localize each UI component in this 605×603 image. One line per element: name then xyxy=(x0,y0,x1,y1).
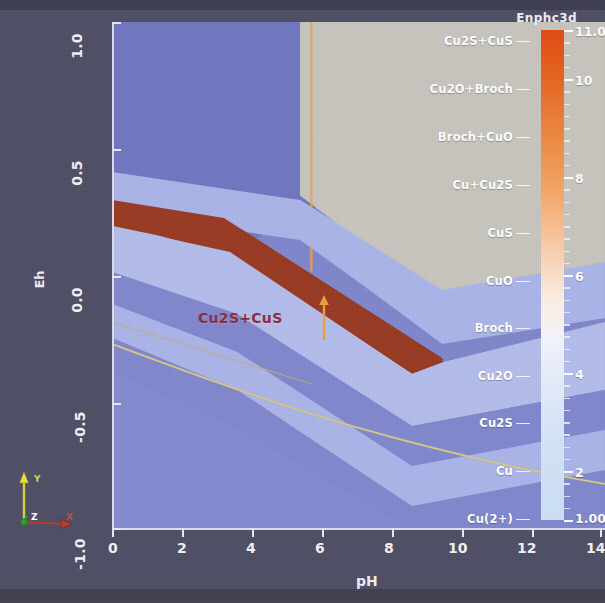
colorbar-minor-tick xyxy=(564,336,570,338)
leader-line xyxy=(516,376,530,377)
leader-line xyxy=(516,328,530,329)
leader-line xyxy=(516,89,530,90)
colorbar-minor-tick xyxy=(564,508,570,510)
colorbar-minor-tick xyxy=(564,42,570,44)
x-tick-mark xyxy=(600,528,602,537)
colorbar-minor-tick xyxy=(564,104,570,106)
y-tick-mark xyxy=(112,403,121,405)
colorbar-major-tick xyxy=(564,520,573,522)
colorbar-minor-tick xyxy=(564,422,570,424)
colorbar-tick-label-3: 8 xyxy=(575,171,584,186)
colorbar-minor-tick xyxy=(564,238,570,240)
region-label-broch-cuo: Broch+CuO xyxy=(340,130,530,144)
colorbar-minor-tick xyxy=(564,496,570,498)
x-tick-mark xyxy=(532,528,534,537)
colorbar-tick-label-4: 6 xyxy=(575,269,584,284)
gizmo-label-z: Z xyxy=(31,512,38,522)
colorbar-minor-tick xyxy=(564,312,570,314)
leader-line xyxy=(516,423,530,424)
colorbar-minor-tick xyxy=(564,226,570,228)
colorbar-minor-tick xyxy=(564,410,570,412)
colorbar-minor-tick xyxy=(564,251,570,253)
colorbar-minor-tick xyxy=(564,434,570,436)
region-label-cu2s-cus: Cu2S+CuS xyxy=(340,34,530,48)
colorbar-tick-label-1: 11.0 xyxy=(575,24,605,39)
y-tick-mark xyxy=(112,276,121,278)
colorbar-minor-tick xyxy=(564,263,570,265)
colorbar-minor-tick xyxy=(564,349,570,351)
x-tick-label-6: 10 xyxy=(448,540,467,556)
region-label-cus: CuS xyxy=(340,226,530,240)
region-label-cu2o: Cu2O xyxy=(340,369,530,383)
colorbar-minor-tick xyxy=(564,398,570,400)
y-tick-label-4: -0.5 xyxy=(72,411,88,443)
leader-line xyxy=(516,137,530,138)
y-axis-title: Eh xyxy=(32,270,47,288)
colorbar-minor-tick xyxy=(564,361,570,363)
x-tick-mark xyxy=(182,528,184,537)
colorbar-minor-tick xyxy=(564,153,570,155)
leader-line xyxy=(516,519,530,520)
colorbar-minor-tick xyxy=(564,55,570,57)
colorbar-minor-tick xyxy=(564,202,570,204)
colorbar-tick-label-2: 10 xyxy=(575,73,592,88)
colorbar-minor-tick xyxy=(564,300,570,302)
colorbar-major-tick xyxy=(564,471,573,473)
x-tick-mark xyxy=(252,528,254,537)
x-tick-label-4: 6 xyxy=(315,540,325,556)
colorbar-ticks xyxy=(564,30,572,520)
x-tick-mark xyxy=(462,528,464,537)
colorbar-tick-label-5: 4 xyxy=(575,367,584,382)
axis-orientation-gizmo[interactable]: Y X Z xyxy=(14,468,76,530)
colorbar-major-tick xyxy=(564,30,573,32)
colorbar-minor-tick xyxy=(564,324,570,326)
y-tick-mark xyxy=(112,149,121,151)
y-tick-label-2: 0.5 xyxy=(69,160,85,186)
page-title: Enphc3d xyxy=(516,11,577,25)
gizmo-label-x: X xyxy=(66,512,73,522)
region-label-cu-cu2s: Cu+Cu2S xyxy=(340,178,530,192)
colorbar-minor-tick xyxy=(564,116,570,118)
colorbar-minor-tick xyxy=(564,165,570,167)
y-tick-label-3: 0.0 xyxy=(69,287,85,313)
x-tick-label-1: 0 xyxy=(108,540,118,556)
colorbar-minor-tick xyxy=(564,128,570,130)
region-label-cu2plus: Cu(2+) xyxy=(340,512,530,526)
colorbar[interactable] xyxy=(541,30,564,520)
colorbar-major-tick xyxy=(564,373,573,375)
colorbar-major-tick xyxy=(564,79,573,81)
y-tick-label-1: 1.0 xyxy=(69,33,85,59)
annotation-arrow-icon xyxy=(316,294,332,342)
bottom-strip xyxy=(0,589,605,603)
colorbar-minor-tick xyxy=(564,483,570,485)
colorbar-minor-tick xyxy=(564,385,570,387)
top-strip xyxy=(0,0,605,10)
region-label-cuo: CuO xyxy=(340,274,530,288)
x-axis-title: pH xyxy=(356,573,378,589)
gizmo-label-y: Y xyxy=(34,474,41,484)
x-tick-mark xyxy=(112,528,114,537)
colorbar-minor-tick xyxy=(564,67,570,69)
colorbar-minor-tick xyxy=(564,459,570,461)
colorbar-minor-tick xyxy=(564,214,570,216)
leader-line xyxy=(516,41,530,42)
leader-line xyxy=(516,471,530,472)
colorbar-major-tick xyxy=(564,275,573,277)
colorbar-minor-tick xyxy=(564,447,570,449)
x-tick-label-7: 12 xyxy=(517,540,536,556)
colorbar-minor-tick xyxy=(564,189,570,191)
region-label-cu2s: Cu2S xyxy=(340,416,530,430)
y-tick-label-5: -1.0 xyxy=(72,538,88,570)
region-label-cu: Cu xyxy=(340,464,530,478)
colorbar-tick-label-7: 1.00 xyxy=(575,511,605,526)
y-tick-mark xyxy=(112,22,121,24)
x-tick-label-2: 2 xyxy=(177,540,187,556)
region-label-cu2o-broch: Cu2O+Broch xyxy=(340,82,530,96)
x-tick-mark xyxy=(322,528,324,537)
colorbar-tick-label-6: 2 xyxy=(575,465,584,480)
leader-line xyxy=(516,185,530,186)
leader-line xyxy=(516,233,530,234)
x-tick-mark xyxy=(392,528,394,537)
pourbaix-diagram-window: Cu2S+CuS 1.0 0.5 0.0 -0.5 -1.0 Eh 0 2 4 … xyxy=(0,0,605,603)
region-label-broch: Broch xyxy=(340,321,530,335)
